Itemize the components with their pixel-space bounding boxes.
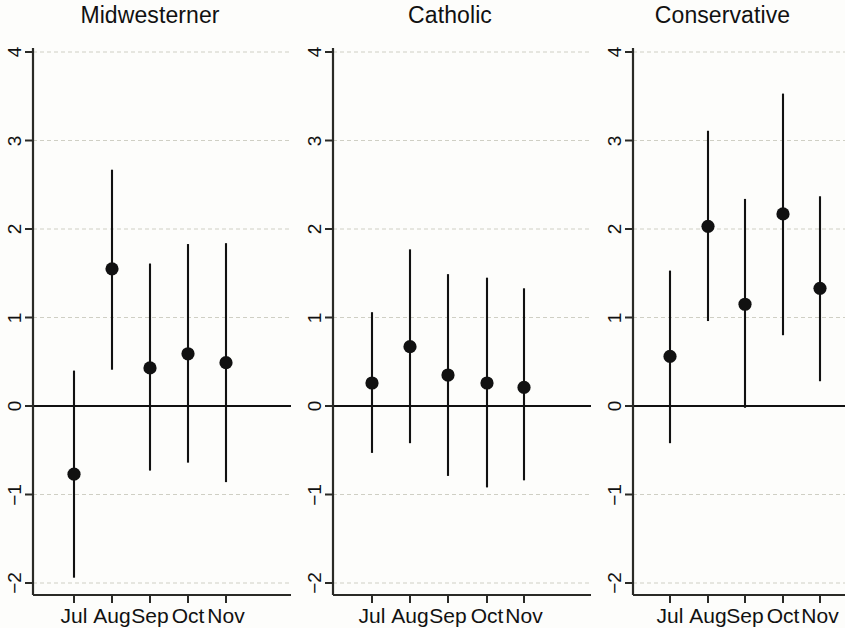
y-tick-label--2: −2 (604, 563, 626, 603)
x-tick-label-nov-midwesterner: Nov (196, 604, 256, 628)
y-tick-label-0: 0 (604, 386, 626, 426)
y-tick-label-3: 3 (4, 121, 26, 161)
plot-area-conservative (600, 0, 845, 625)
estimate-marker-sep (441, 368, 454, 381)
y-tick-label-3: 3 (304, 121, 326, 161)
panel-conservative: Conservative43210−1−2JulAugSepOctNov (600, 0, 845, 625)
datapoint-group-oct (181, 244, 194, 463)
y-tick-label-0: 0 (304, 386, 326, 426)
datapoint-group-oct (480, 278, 493, 488)
estimate-marker-jul (663, 350, 676, 363)
x-tick-label-nov-conservative: Nov (790, 604, 845, 628)
estimate-marker-jul (67, 468, 80, 481)
y-tick-label--1: −1 (604, 475, 626, 515)
y-tick-label-1: 1 (604, 298, 626, 338)
estimate-marker-jul (365, 376, 378, 389)
y-tick-label-4: 4 (304, 32, 326, 72)
estimate-marker-oct (181, 347, 194, 360)
datapoint-group-aug (701, 131, 714, 321)
datapoint-group-aug (403, 249, 416, 443)
y-tick-label-2: 2 (304, 209, 326, 249)
y-tick-label--1: −1 (304, 475, 326, 515)
datapoint-group-nov (813, 196, 826, 381)
estimate-marker-aug (701, 220, 714, 233)
datapoint-group-jul (365, 312, 378, 453)
estimate-marker-sep (738, 298, 751, 311)
datapoint-group-sep (441, 274, 454, 476)
y-tick-label-4: 4 (4, 32, 26, 72)
datapoint-group-jul (67, 371, 80, 578)
datapoint-group-jul (663, 271, 676, 444)
datapoint-group-sep (143, 264, 156, 471)
panel-midwesterner: Midwesterner43210−1−2JulAugSepOctNov (0, 0, 300, 625)
estimate-marker-oct (480, 376, 493, 389)
x-tick-label-nov-catholic: Nov (494, 604, 554, 628)
y-tick-label--1: −1 (4, 475, 26, 515)
y-tick-label-3: 3 (604, 121, 626, 161)
datapoint-group-nov (517, 288, 530, 480)
plot-area-midwesterner (0, 0, 300, 625)
y-tick-label-2: 2 (4, 209, 26, 249)
y-tick-label--2: −2 (4, 563, 26, 603)
y-tick-label--2: −2 (304, 563, 326, 603)
y-tick-label-4: 4 (604, 32, 626, 72)
datapoint-group-nov (219, 243, 232, 482)
estimate-marker-sep (143, 361, 156, 374)
estimate-marker-oct (776, 207, 789, 220)
y-tick-label-1: 1 (4, 298, 26, 338)
estimate-marker-aug (105, 262, 118, 275)
estimate-marker-nov (813, 282, 826, 295)
y-tick-label-0: 0 (4, 386, 26, 426)
estimate-marker-aug (403, 340, 416, 353)
datapoint-group-sep (738, 199, 751, 408)
datapoint-group-aug (105, 170, 118, 370)
estimate-marker-nov (517, 381, 530, 394)
datapoint-group-oct (776, 94, 789, 336)
y-tick-label-2: 2 (604, 209, 626, 249)
estimate-marker-nov (219, 356, 232, 369)
y-tick-label-1: 1 (304, 298, 326, 338)
plot-area-catholic (300, 0, 600, 625)
panel-catholic: Catholic43210−1−2JulAugSepOctNov (300, 0, 600, 625)
